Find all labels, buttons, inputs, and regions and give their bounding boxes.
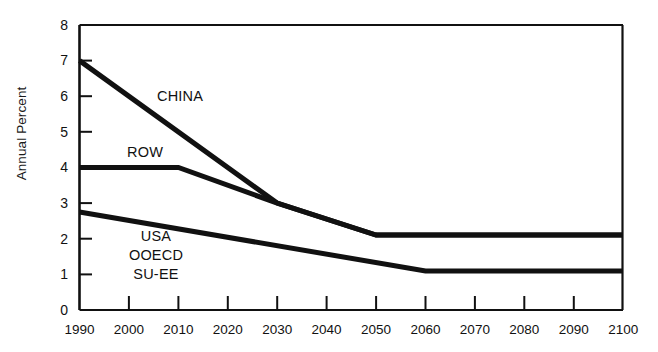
x-tick-label-2020: 2020: [200, 322, 256, 337]
x-tick-label-1990: 1990: [52, 322, 108, 337]
x-axis-ticks: [129, 296, 574, 310]
chart-figure: Annual Percent 8 7 6 5 4 3 2 1 0 1990 20…: [0, 0, 658, 352]
chart-plot-area: [0, 0, 658, 352]
x-tick-label-2050: 2050: [348, 322, 404, 337]
y-tick-label-4: 4: [48, 159, 68, 175]
y-tick-label-1: 1: [48, 266, 68, 282]
y-tick-label-0: 0: [48, 302, 68, 318]
y-tick-label-6: 6: [48, 88, 68, 104]
y-axis-title: Annual Percent: [14, 69, 29, 199]
y-tick-label-2: 2: [48, 231, 68, 247]
x-tick-label-2100: 2100: [595, 322, 651, 337]
x-tick-label-2010: 2010: [150, 322, 206, 337]
x-tick-label-2030: 2030: [249, 322, 305, 337]
series-annotation-row: ROW: [127, 144, 163, 160]
x-tick-label-2060: 2060: [398, 322, 454, 337]
x-tick-label-2080: 2080: [496, 322, 552, 337]
series-annotation-usa: USA: [101, 227, 211, 246]
y-tick-label-7: 7: [48, 52, 68, 68]
x-tick-label-2070: 2070: [447, 322, 503, 337]
series-annotation-su-ee: SU-EE: [101, 265, 211, 284]
x-tick-label-2000: 2000: [101, 322, 157, 337]
x-tick-label-2040: 2040: [299, 322, 355, 337]
x-tick-label-2090: 2090: [546, 322, 602, 337]
series-annotation-ooecd: OOECD: [101, 246, 211, 265]
series-annotation-china: CHINA: [157, 88, 203, 104]
y-tick-label-5: 5: [48, 124, 68, 140]
y-tick-label-8: 8: [48, 17, 68, 33]
y-tick-label-3: 3: [48, 195, 68, 211]
